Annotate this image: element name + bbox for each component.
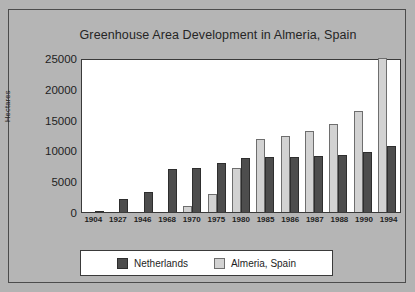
x-tick-label: 1970 [179,215,204,224]
x-tick-label: 1968 [155,215,180,224]
bar-group [302,60,326,212]
bar-nl-1988 [338,155,347,212]
bar-group [205,60,229,212]
bars-layer [82,60,400,212]
bar-group [253,60,277,212]
chart-title: Greenhouse Area Development in Almeria, … [29,28,407,42]
x-tick-label: 1904 [81,215,106,224]
legend-label-netherlands: Netherlands [134,258,188,269]
y-tick-label: 25000 [27,53,77,65]
y-tick-label: 0 [27,207,77,219]
bar-nl-1985 [265,157,274,212]
x-tick-label: 1985 [253,215,278,224]
x-tick-label: 1927 [106,215,131,224]
bar-group [278,60,302,212]
legend-entry-netherlands: Netherlands [117,258,188,269]
x-tick-label: 1986 [278,215,303,224]
legend-swatch-icon-netherlands [117,258,128,269]
bar-group [229,60,253,212]
bar-es-1987 [305,131,314,212]
bar-es-1970 [183,206,192,212]
legend-swatch-icon-almeria-spain [214,258,225,269]
bar-es-1985 [256,139,265,212]
bar-nl-1987 [314,156,323,212]
y-axis-title: Hectares [3,90,12,122]
bar-nl-1968 [168,169,177,212]
figure-border: Greenhouse Area Development in Almeria, … [8,9,406,283]
x-tick-label: 1980 [229,215,254,224]
bar-nl-1904 [95,211,104,213]
bar-es-1988 [329,124,338,212]
y-tick-label: 20000 [27,84,77,96]
bar-group [375,60,399,212]
x-tick-label: 1994 [376,215,401,224]
chart-legend: Netherlands Almeria, Spain [80,250,333,276]
bar-nl-1970 [192,168,201,212]
x-tick-label: 1987 [302,215,327,224]
bar-group [326,60,350,212]
bar-nl-1980 [241,158,250,212]
plot-area [81,59,401,213]
bar-group [156,60,180,212]
y-tick-label: 10000 [27,145,77,157]
bar-es-1980 [232,168,241,212]
bar-nl-1927 [119,199,128,212]
x-tick-label: 1990 [352,215,377,224]
y-tick-label: 5000 [27,176,77,188]
bar-es-1994 [378,58,387,212]
bar-group [180,60,204,212]
bar-group [107,60,131,212]
legend-label-almeria-spain: Almeria, Spain [231,258,296,269]
x-tick-label: 1975 [204,215,229,224]
bar-group [132,60,156,212]
x-axis: 1904192719461968197019751980198519861987… [81,215,401,224]
bar-group [350,60,374,212]
bar-group [83,60,107,212]
bar-nl-1946 [144,192,153,212]
bar-nl-1994 [387,146,396,212]
legend-entry-almeria-spain: Almeria, Spain [214,258,296,269]
figure-frame: Greenhouse Area Development in Almeria, … [0,0,415,292]
y-tick-label: 15000 [27,115,77,127]
x-tick-label: 1988 [327,215,352,224]
bar-es-1986 [281,136,290,212]
bar-es-1990 [354,111,363,212]
x-tick-label: 1946 [130,215,155,224]
bar-nl-1986 [290,157,299,212]
bar-nl-1975 [217,163,226,212]
bar-es-1975 [208,194,217,212]
bar-nl-1990 [363,152,372,212]
y-axis: 0500010000150002000025000 [27,52,77,220]
